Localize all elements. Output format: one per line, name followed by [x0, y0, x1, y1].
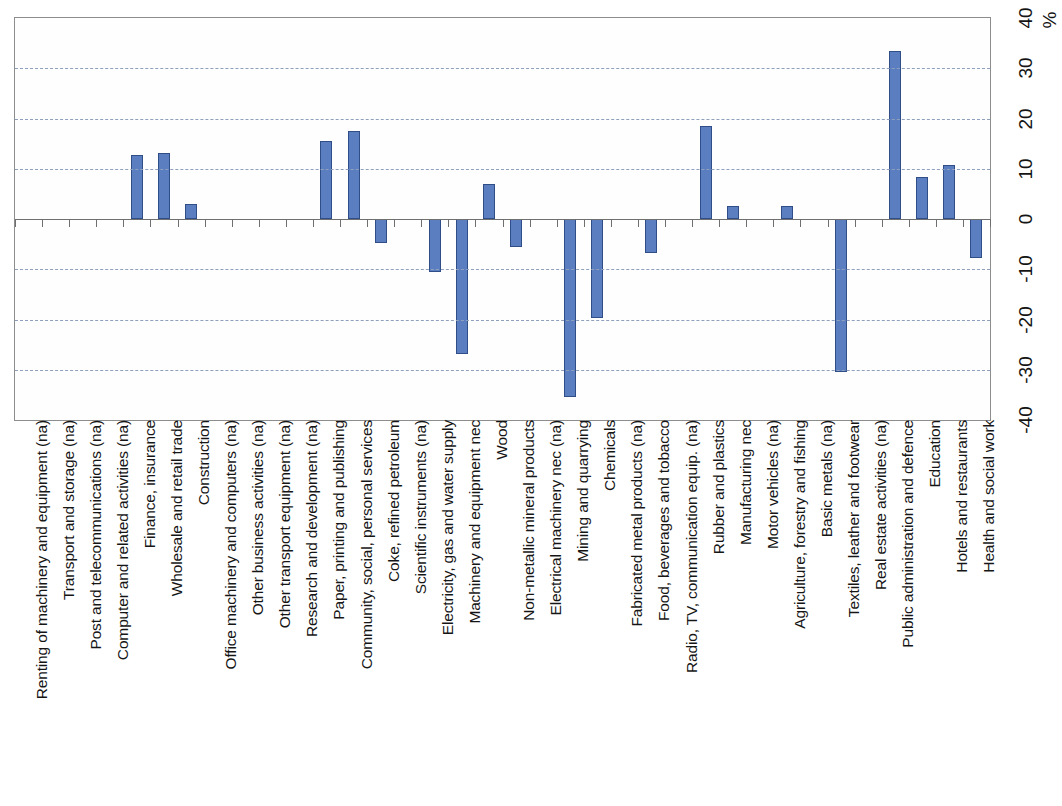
x-axis-tick — [692, 219, 693, 227]
x-axis-category-label: Community, social, personal services — [359, 420, 375, 800]
x-axis-category-label: Wholesale and retail trade — [169, 420, 185, 800]
gridline — [15, 119, 990, 120]
x-axis-tick — [367, 219, 368, 227]
x-axis-tick — [638, 219, 639, 227]
x-axis-tick — [909, 219, 910, 227]
gridline — [15, 269, 990, 270]
x-axis-category-label: Scientific instruments (na) — [413, 420, 429, 800]
bar-chart: 403020100-10-20-30-40% Renting of machin… — [0, 0, 1062, 806]
x-axis-category-label: Other business activities (na) — [250, 420, 266, 800]
y-axis: 403020100-10-20-30-40% — [996, 0, 1062, 440]
x-axis-tick — [313, 219, 314, 227]
bar — [916, 177, 928, 219]
x-axis-category-label: Rubber and plastics — [711, 420, 727, 800]
gridline — [15, 169, 990, 170]
x-axis-tick — [719, 219, 720, 227]
x-axis-tick — [855, 219, 856, 227]
x-axis-category-label: Textiles, leather and footwear — [846, 420, 862, 800]
bar — [889, 51, 901, 219]
x-axis-category-label: Office machinery and computers (na) — [223, 420, 239, 800]
x-axis-tick — [42, 219, 43, 227]
bar — [943, 165, 955, 219]
x-axis-tick — [800, 219, 801, 227]
x-axis-tick — [232, 219, 233, 227]
x-axis-category-label: Manufacturing nec — [738, 420, 754, 800]
bar — [781, 206, 793, 219]
x-axis-tick — [990, 219, 991, 227]
x-axis-category-label: Other transport equipment (na) — [277, 420, 293, 800]
x-axis-tick — [96, 219, 97, 227]
bar — [131, 155, 143, 219]
x-axis-tick — [475, 219, 476, 227]
bar — [970, 219, 982, 258]
bar — [456, 219, 468, 354]
x-axis-tick — [69, 219, 70, 227]
x-axis-tick — [286, 219, 287, 227]
bar — [320, 141, 332, 219]
x-axis-category-label: Health and social work — [981, 420, 997, 800]
bar — [429, 219, 441, 272]
x-axis-category-label: Computer and related activities (na) — [115, 420, 131, 800]
x-axis-category-label: Non-metallic mineral products — [521, 420, 537, 800]
x-axis-tick — [665, 219, 666, 227]
x-axis-category-label: Real estate activities (na) — [873, 420, 889, 800]
x-axis-tick — [611, 219, 612, 227]
x-axis-category-label: Chemicals — [602, 420, 618, 800]
x-axis-tick — [340, 219, 341, 227]
x-axis-tick — [178, 219, 179, 227]
bar — [348, 131, 360, 219]
x-axis-category-label: Radio, TV, communication equip. (na) — [684, 420, 700, 800]
bar — [375, 219, 387, 243]
x-axis-tick — [205, 219, 206, 227]
x-axis-tick — [963, 219, 964, 227]
x-axis-category-label: Motor vehicles (na) — [765, 420, 781, 800]
bar — [185, 204, 197, 219]
x-axis-category-label: Mining and quarrying — [575, 420, 591, 800]
x-axis-tick — [448, 219, 449, 227]
x-axis-category-label: Renting of machinery and equipment (na) — [34, 420, 50, 800]
x-axis-tick — [503, 219, 504, 227]
x-axis-category-label: Coke, refined petroleum — [386, 420, 402, 800]
x-axis-category-label: Electrical machinery nec (na) — [548, 420, 564, 800]
bar — [700, 126, 712, 219]
x-axis-tick — [530, 219, 531, 227]
x-axis-category-label: Construction — [196, 420, 212, 800]
x-axis-tick — [15, 219, 16, 227]
x-axis-category-label: Basic metals (na) — [819, 420, 835, 800]
x-axis-tick — [936, 219, 937, 227]
x-axis-category-label: Paper, printing and publishing — [331, 420, 347, 800]
x-axis-category-label: Post and telecommunications (na) — [88, 420, 104, 800]
x-axis-tick — [828, 219, 829, 227]
gridline — [15, 370, 990, 371]
bar — [483, 184, 495, 219]
plot-area — [14, 17, 991, 421]
x-axis-tick — [773, 219, 774, 227]
x-axis-category-label: Research and development (na) — [304, 420, 320, 800]
gridline — [15, 68, 990, 69]
x-axis-tick — [259, 219, 260, 227]
gridline — [15, 320, 990, 321]
bar — [510, 219, 522, 247]
x-axis-category-label: Fabricated metal products (na) — [629, 420, 645, 800]
x-axis-category-label: Wood — [494, 420, 510, 800]
bar — [158, 153, 170, 219]
x-axis-category-label: Education — [927, 420, 943, 800]
x-axis-category-label: Public administration and defence — [900, 420, 916, 800]
x-axis-tick — [150, 219, 151, 227]
y-axis-unit-label: % — [1039, 0, 1061, 40]
x-axis-category-label: Finance, insurance — [142, 420, 158, 800]
x-axis-category-label: Machinery and equipment nec — [467, 420, 483, 800]
x-axis-tick — [123, 219, 124, 227]
bar — [727, 206, 739, 219]
x-axis-category-label: Agriculture, forestry and fishing — [792, 420, 808, 800]
bar — [835, 219, 847, 372]
x-axis-category-labels: Renting of machinery and equipment (na)T… — [0, 424, 1062, 806]
x-axis-category-label: Transport and storage (na) — [61, 420, 77, 800]
x-axis-category-label: Electricity, gas and water supply — [440, 420, 456, 800]
x-axis-tick — [584, 219, 585, 227]
bar — [645, 219, 657, 253]
x-axis-tick — [746, 219, 747, 227]
x-axis-tick — [557, 219, 558, 227]
x-axis-category-label: Food, beverages and tobacco — [656, 420, 672, 800]
x-axis-tick — [882, 219, 883, 227]
